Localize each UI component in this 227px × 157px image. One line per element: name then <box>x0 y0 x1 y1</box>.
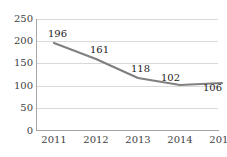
y-tick-label-50: 50 <box>2 103 33 113</box>
data-label-2011: 196 <box>48 29 67 39</box>
y-axis-ticks: 250 200 150 100 50 0 <box>0 0 33 157</box>
x-tick-label-2011: 2011 <box>34 134 74 146</box>
y-tick-label-100: 100 <box>2 81 33 91</box>
y-tick-label-150: 150 <box>2 58 33 68</box>
x-axis-ticks: 2011 2012 2013 2014 2015 <box>36 134 219 152</box>
x-tick-label-2014: 2014 <box>160 134 200 146</box>
y-tick-label-250: 250 <box>2 14 33 24</box>
data-label-2014: 102 <box>161 73 180 83</box>
x-tick-label-2012: 2012 <box>76 134 116 146</box>
x-tick-label-2013: 2013 <box>118 134 158 146</box>
data-label-2015: 106 <box>203 83 222 93</box>
x-axis-line <box>36 130 219 131</box>
y-tick-label-200: 200 <box>2 36 33 46</box>
data-label-2013: 118 <box>131 64 150 74</box>
data-label-2012: 161 <box>90 45 109 55</box>
y-tick-label-0: 0 <box>2 126 33 136</box>
line-chart: 250 200 150 100 50 0 196 161 118 102 106… <box>0 0 227 157</box>
x-tick-label-2015: 2015 <box>202 134 227 146</box>
